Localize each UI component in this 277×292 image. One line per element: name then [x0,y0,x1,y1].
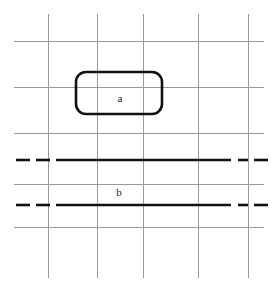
figure-canvas: a b [0,0,277,292]
label-a: a [118,92,123,104]
grid-vertical-lines [49,14,249,278]
label-b: b [116,186,122,198]
grid-horizontal-lines [14,42,264,228]
figure-diagram: a b [0,0,277,292]
